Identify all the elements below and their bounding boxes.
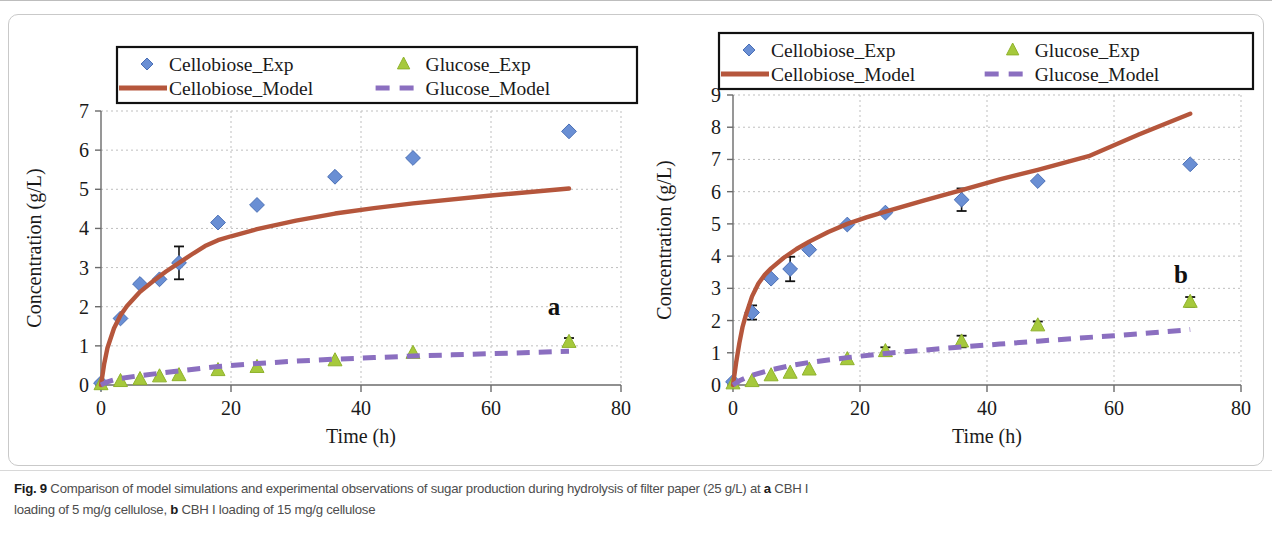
x-tick-label: 0	[728, 397, 738, 419]
caption-label-a: a	[764, 481, 771, 496]
x-tick-label: 20	[221, 397, 241, 419]
legend-label: Cellobiose_Exp	[771, 40, 896, 61]
legend-label: Cellobiose_Model	[169, 78, 314, 99]
y-tick-label: 5	[711, 213, 721, 235]
triangle-marker	[562, 334, 576, 347]
legend-label: Glucose_Exp	[426, 54, 531, 75]
panel-letter-a: a	[548, 293, 561, 320]
plot-area	[94, 111, 621, 392]
diamond-marker	[954, 192, 969, 207]
y-tick-label: 2	[711, 310, 721, 332]
chart-svg-b: 0123456789020406080Time (h)Concentration…	[641, 15, 1265, 467]
x-tick-label: 80	[1231, 397, 1251, 419]
tick-labels: 01234567020406080	[79, 100, 631, 419]
y-tick-label: 5	[79, 178, 89, 200]
diamond-marker	[1183, 157, 1198, 172]
caption-text-part3: loading of 5 mg/g cellulose,	[14, 502, 170, 517]
panel-letter-b: b	[1174, 261, 1188, 288]
diamond-marker	[562, 124, 577, 139]
y-tick-label: 1	[79, 335, 89, 357]
y-tick-label: 6	[711, 181, 721, 203]
bottom-rule	[0, 470, 1272, 471]
y-tick-label: 0	[79, 374, 89, 396]
y-tick-label: 6	[79, 139, 89, 161]
figure-caption: Fig. 9 Comparison of model simulations a…	[14, 478, 1258, 520]
figure-frame: 01234567020406080Time (h)Concentration (…	[8, 14, 1264, 466]
x-axis-title: Time (h)	[952, 425, 1022, 448]
chart-legend: Cellobiose_ExpGlucose_ExpCellobiose_Mode…	[117, 47, 637, 103]
diamond-marker	[250, 198, 265, 213]
diamond-marker	[211, 215, 226, 230]
top-rule	[0, 0, 1272, 1]
figure-root: 01234567020406080Time (h)Concentration (…	[0, 0, 1272, 540]
caption-label-b: b	[170, 502, 178, 517]
x-tick-label: 60	[481, 397, 501, 419]
chart-panel-a: 01234567020406080Time (h)Concentration (…	[9, 15, 649, 467]
caption-text-part2: CBH I	[771, 481, 808, 496]
y-tick-label: 1	[711, 342, 721, 364]
triangle-marker	[1031, 318, 1045, 331]
x-tick-label: 0	[96, 397, 106, 419]
legend-label: Cellobiose_Model	[771, 64, 916, 85]
y-tick-label: 8	[711, 116, 721, 138]
chart-legend: Cellobiose_ExpGlucose_ExpCellobiose_Mode…	[719, 33, 1253, 89]
plot-area	[726, 95, 1241, 392]
y-tick-label: 2	[79, 296, 89, 318]
y-tick-label: 7	[711, 148, 721, 170]
y-tick-label: 4	[79, 217, 89, 239]
y-axis-title: Concentration (g/L)	[23, 168, 46, 327]
legend-label: Glucose_Exp	[1035, 40, 1140, 61]
y-tick-label: 0	[711, 374, 721, 396]
x-axis-title: Time (h)	[326, 425, 396, 448]
legend-label: Glucose_Model	[1035, 64, 1160, 85]
x-tick-label: 20	[850, 397, 870, 419]
data-series-group	[94, 124, 577, 390]
y-tick-label: 7	[79, 100, 89, 122]
series-points-glucose_exp	[726, 294, 1197, 389]
caption-text-part4: CBH I loading of 15 mg/g cellulose	[178, 502, 375, 517]
legend-label: Glucose_Model	[426, 78, 551, 99]
x-tick-label: 40	[977, 397, 997, 419]
series-points-glucose_exp	[94, 334, 576, 389]
figure-number: Fig. 9	[14, 481, 47, 496]
diamond-marker	[406, 151, 421, 166]
legend-label: Cellobiose_Exp	[169, 54, 294, 75]
x-tick-label: 60	[1104, 397, 1124, 419]
y-tick-label: 3	[711, 277, 721, 299]
y-axis-title: Concentration (g/L)	[653, 160, 676, 319]
chart-svg-a: 01234567020406080Time (h)Concentration (…	[9, 15, 649, 467]
diamond-marker	[783, 262, 798, 277]
diamond-marker	[1030, 174, 1045, 189]
x-tick-label: 40	[351, 397, 371, 419]
y-tick-label: 3	[79, 257, 89, 279]
chart-panel-b: 0123456789020406080Time (h)Concentration…	[641, 15, 1265, 467]
diamond-marker	[328, 169, 343, 184]
y-tick-label: 4	[711, 245, 721, 267]
caption-text-part1: Comparison of model simulations and expe…	[50, 481, 763, 496]
data-series-group	[726, 114, 1198, 389]
series-points-cellobiose_exp	[94, 124, 577, 390]
x-tick-label: 80	[611, 397, 631, 419]
